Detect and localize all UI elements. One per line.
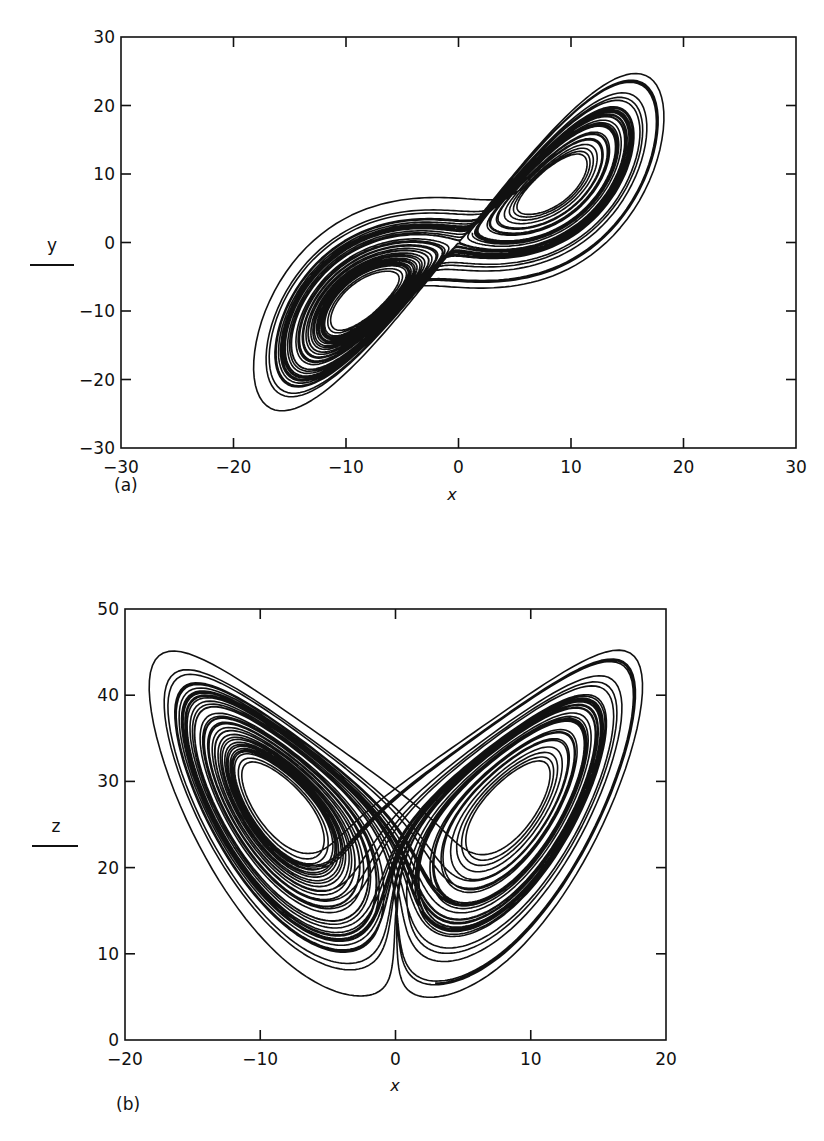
x-tick-label: 30 (785, 457, 807, 477)
x-tick-label: 20 (655, 1049, 677, 1069)
panel-label-a: (a) (114, 475, 138, 495)
y-tick-label: 10 (97, 944, 119, 964)
y-tick-label: 20 (97, 858, 119, 878)
figure-canvas: −30−20−1001020303020100−10−20−30 x y (a)… (0, 0, 824, 1141)
y-tick-label: 40 (97, 685, 119, 705)
x-tick-label: −20 (107, 1049, 143, 1069)
y-axis-label-b: z (52, 816, 61, 836)
x-tick-label: −10 (328, 457, 364, 477)
x-tick-label: 0 (453, 457, 464, 477)
y-tick-label: 50 (97, 599, 119, 619)
y-tick-label: 10 (93, 164, 115, 184)
panel-a: −30−20−1001020303020100−10−20−30 x y (a) (30, 27, 807, 504)
x-tick-label: 20 (673, 457, 695, 477)
y-tick-label: −20 (79, 370, 115, 390)
x-tick-label: 0 (390, 1049, 401, 1069)
x-tick-label: −20 (216, 457, 252, 477)
y-axis-label-a: y (47, 235, 57, 255)
y-tick-label: 30 (93, 27, 115, 47)
y-tick-label: −30 (79, 438, 115, 458)
plot-frame-a (121, 37, 796, 448)
y-tick-label: 0 (108, 1030, 119, 1050)
x-axis-label-a: x (446, 485, 457, 504)
panel-label-b: (b) (116, 1094, 140, 1114)
y-tick-label: 30 (97, 771, 119, 791)
x-tick-label: −10 (242, 1049, 278, 1069)
y-tick-label: 20 (93, 96, 115, 116)
attractor-trajectory-xz (149, 650, 642, 997)
panel-b: −20−100102050403020100 x z (b) (32, 599, 677, 1114)
y-tick-label: 0 (104, 233, 115, 253)
x-axis-label-b: x (389, 1076, 400, 1095)
attractor-trajectory-xy (254, 74, 664, 411)
x-tick-label: 10 (560, 457, 582, 477)
x-tick-label: 10 (520, 1049, 542, 1069)
x-tick-label: −30 (103, 457, 139, 477)
y-tick-label: −10 (79, 301, 115, 321)
